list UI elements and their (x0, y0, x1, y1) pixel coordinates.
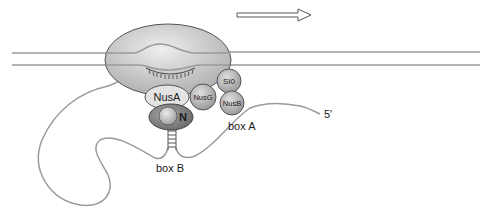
nusb-protein: NusB (220, 91, 244, 115)
svg-text:NusG: NusG (193, 93, 212, 102)
svg-text:SI0: SI0 (223, 77, 236, 86)
svg-text:NusA: NusA (154, 91, 182, 103)
five-prime-label: 5′ (324, 108, 332, 120)
diagram-canvas: NusA N NusG SI0 Nu (0, 0, 486, 213)
box-a-label: box A (228, 120, 256, 132)
dna-duplex (12, 52, 480, 65)
box-b-label: box B (156, 162, 184, 174)
transcription-direction-arrow-icon (237, 9, 311, 21)
antitermination-diagram: NusA N NusG SI0 Nu (0, 0, 486, 213)
n-protein: N (149, 104, 193, 130)
s10-protein: SI0 (217, 69, 241, 93)
nusg-protein: NusG (190, 84, 216, 110)
svg-text:NusB: NusB (223, 99, 241, 108)
svg-text:N: N (179, 111, 187, 123)
